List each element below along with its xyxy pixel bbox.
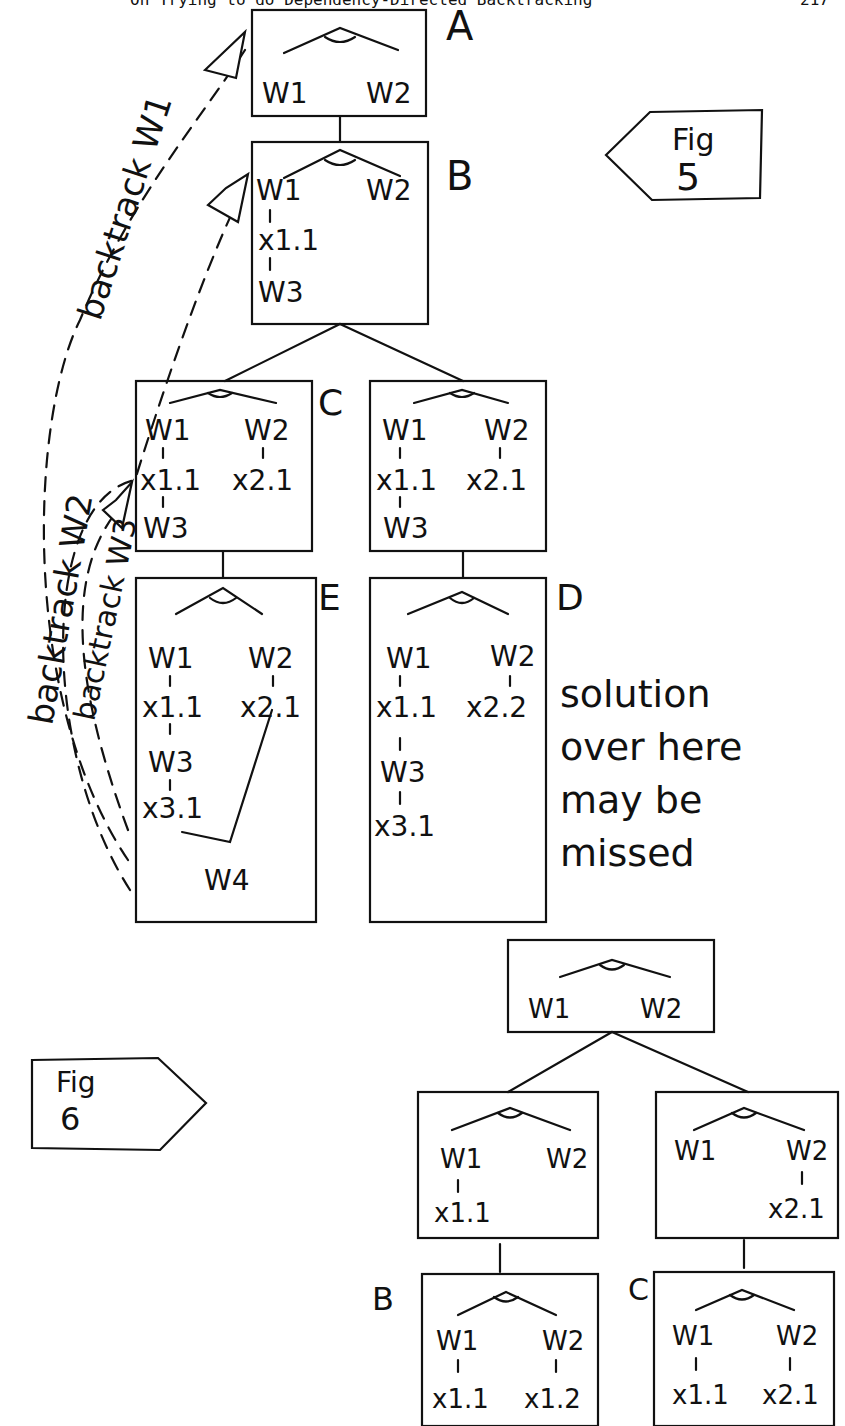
- node-c: W1 W2 x1.1 x2.1 W3 C: [136, 381, 343, 551]
- w1-label: W1: [262, 77, 308, 110]
- node-label-b: B: [446, 153, 473, 199]
- w1-label: W1: [148, 642, 194, 675]
- svg-text:missed: missed: [560, 831, 695, 875]
- svg-text:x1.1: x1.1: [434, 1198, 491, 1228]
- x-label: x2.1: [240, 691, 301, 724]
- node-label-c: C: [318, 382, 343, 423]
- svg-text:W1: W1: [528, 994, 570, 1024]
- x-label: x1.1: [376, 464, 437, 497]
- svg-text:W1: W1: [436, 1326, 478, 1356]
- w3-label: W3: [380, 756, 426, 789]
- svg-text:W2: W2: [542, 1326, 584, 1356]
- solution-note: solution over here may be missed: [560, 672, 742, 875]
- x-label: x1.1: [258, 224, 319, 257]
- svg-text:W2: W2: [640, 994, 682, 1024]
- svg-text:Fig: Fig: [56, 1066, 96, 1099]
- node-b: W1 W2 x1.1 W3 B: [252, 142, 473, 324]
- x-label: x1.1: [140, 464, 201, 497]
- svg-text:5: 5: [676, 155, 700, 199]
- svg-text:may be: may be: [560, 778, 702, 822]
- node-label-a: A: [446, 3, 474, 49]
- fig6-right-node: W1 W2 x2.1: [656, 1092, 838, 1238]
- svg-text:W2: W2: [786, 1136, 828, 1166]
- node-label-c: C: [628, 1272, 649, 1307]
- x-label: x2.2: [466, 691, 527, 724]
- svg-text:Fig: Fig: [672, 122, 714, 157]
- node-a: W1 W2 A: [252, 3, 474, 116]
- node-c-sibling: W1 W2 x1.1 x2.1 W3: [370, 381, 546, 551]
- w2-label: W2: [366, 77, 412, 110]
- w2-label: W2: [366, 174, 412, 207]
- svg-text:x1.2: x1.2: [524, 1384, 581, 1414]
- x-label: x2.1: [466, 464, 527, 497]
- w3-label: W3: [258, 276, 304, 309]
- node-label-b: B: [372, 1280, 394, 1318]
- w3-label: W3: [143, 512, 189, 545]
- node-label-d: D: [556, 577, 584, 618]
- fig6-node-c: W1 W2 x1.1 x2.1 C: [628, 1272, 834, 1426]
- svg-text:x2.1: x2.1: [768, 1194, 825, 1224]
- w1-label: W1: [382, 414, 428, 447]
- w3-label: W3: [383, 512, 429, 545]
- svg-text:x1.1: x1.1: [672, 1380, 729, 1410]
- fig6-label: Fig 6: [32, 1058, 206, 1150]
- svg-text:solution: solution: [560, 672, 710, 716]
- svg-text:W2: W2: [546, 1144, 588, 1174]
- w2-label: W2: [248, 642, 294, 675]
- x-label: x1.1: [142, 691, 203, 724]
- svg-text:x2.1: x2.1: [762, 1380, 819, 1410]
- svg-text:over here: over here: [560, 725, 742, 769]
- w2-label: W2: [484, 414, 530, 447]
- fig6-left-node: W1 W2 x1.1: [418, 1092, 598, 1238]
- svg-text:W2: W2: [776, 1321, 818, 1351]
- x-label: x1.1: [376, 691, 437, 724]
- svg-text:W1: W1: [440, 1144, 482, 1174]
- w4-label: W4: [204, 864, 250, 897]
- w1-label: W1: [145, 414, 191, 447]
- x-label: x3.1: [374, 810, 435, 843]
- w1-label: W1: [256, 174, 302, 207]
- node-label-e: E: [318, 577, 341, 618]
- w1-label: W1: [386, 642, 432, 675]
- w2-label: W2: [490, 640, 536, 673]
- x-label: x3.1: [142, 792, 203, 825]
- node-e: W1 W2 x1.1 x2.1 W3 x3.1 W4 E: [136, 577, 341, 922]
- svg-text:W1: W1: [674, 1136, 716, 1166]
- svg-text:6: 6: [60, 1100, 80, 1138]
- fig6-root-node: W1 W2: [508, 940, 714, 1032]
- svg-text:x1.1: x1.1: [432, 1384, 489, 1414]
- w3-label: W3: [148, 746, 194, 779]
- x-label: x2.1: [232, 464, 293, 497]
- node-d: W1 W2 x1.1 x2.2 W3 x3.1 D: [370, 577, 584, 922]
- fig6-node-b: W1 W2 x1.1 x1.2 B: [372, 1274, 598, 1426]
- diagram-canvas: W1 W2 A W1 W2 x1.1 W3 B W1 W2 x1.1 x2.1 …: [0, 0, 845, 1426]
- fig5-label: Fig 5: [606, 110, 762, 200]
- svg-text:W1: W1: [672, 1321, 714, 1351]
- backtrack-w1-label: backtrack W1: [70, 90, 180, 324]
- w2-label: W2: [244, 414, 290, 447]
